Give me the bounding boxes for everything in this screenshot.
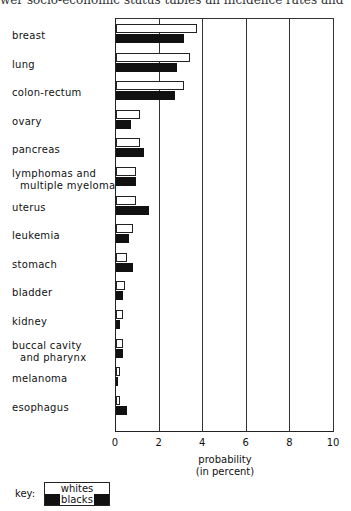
category-label-line1: bladder — [12, 287, 52, 298]
x-axis-label-line1: probability — [180, 454, 270, 466]
category-label-line2: multiple myeloma — [12, 180, 124, 192]
x-axis-label: probability (in percent) — [180, 454, 270, 478]
category-label-line1: buccal cavity — [12, 340, 82, 351]
plot-area — [115, 18, 333, 432]
category-label-line1: breast — [12, 30, 45, 41]
category-label-line1: lymphomas and — [12, 168, 96, 179]
header-text-fragment: wer socio-economic status tables an inci… — [0, 0, 351, 7]
category-label-line1: pancreas — [12, 144, 60, 155]
category-label: kidney — [12, 316, 124, 328]
category-label: buccal cavityand pharynx — [12, 340, 124, 364]
legend-title: key: — [15, 488, 35, 499]
x-tick-label: 2 — [149, 437, 169, 448]
x-tick-label: 4 — [192, 437, 212, 448]
category-label: lung — [12, 59, 124, 71]
legend-item-blacks-label: blacks — [60, 494, 94, 505]
category-label: bladder — [12, 287, 124, 299]
gridline-10 — [333, 18, 334, 432]
category-label-line1: esophagus — [12, 402, 69, 413]
x-tick-label: 10 — [323, 437, 343, 448]
bar-blacks — [116, 91, 175, 100]
gridline-8 — [289, 18, 290, 432]
category-label-line1: leukemia — [12, 230, 60, 241]
bar-whites — [116, 24, 197, 33]
gridline-6 — [246, 18, 247, 432]
category-label: uterus — [12, 202, 124, 214]
category-label-line1: ovary — [12, 116, 42, 127]
category-label: esophagus — [12, 402, 124, 414]
bar-blacks — [116, 63, 177, 72]
category-label-line1: melanoma — [12, 373, 68, 384]
category-label: melanoma — [12, 373, 124, 385]
category-label: breast — [12, 30, 124, 42]
category-label: lymphomas andmultiple myeloma — [12, 168, 124, 192]
category-label-line2: and pharynx — [12, 352, 124, 364]
category-label-line1: uterus — [12, 202, 46, 213]
gridline-4 — [202, 18, 203, 432]
legend-item-blacks: blacks — [45, 494, 109, 505]
category-label: colon-rectum — [12, 87, 124, 99]
legend: whites blacks — [44, 482, 110, 506]
category-label-line1: lung — [12, 59, 35, 70]
x-axis-label-line2: (in percent) — [180, 466, 270, 478]
category-label: stomach — [12, 259, 124, 271]
bar-whites — [116, 81, 184, 90]
category-label: leukemia — [12, 230, 124, 242]
x-tick-label: 8 — [279, 437, 299, 448]
gridline-2 — [159, 18, 160, 432]
category-label-line1: colon-rectum — [12, 87, 82, 98]
category-label: pancreas — [12, 144, 124, 156]
category-label: ovary — [12, 116, 124, 128]
category-label-line1: stomach — [12, 259, 57, 270]
legend-item-whites: whites — [45, 483, 109, 494]
bar-whites — [116, 53, 190, 62]
category-label-line1: kidney — [12, 316, 47, 327]
bar-blacks — [116, 34, 184, 43]
x-tick-label: 6 — [236, 437, 256, 448]
x-tick-label: 0 — [105, 437, 125, 448]
